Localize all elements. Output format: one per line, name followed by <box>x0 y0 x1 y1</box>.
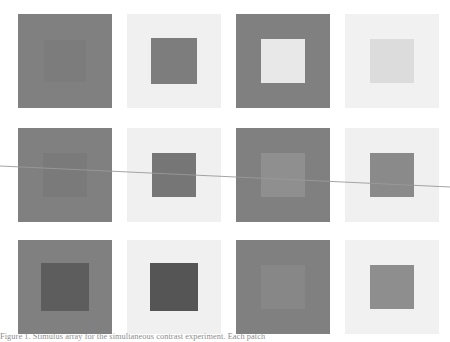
target-patch <box>370 265 414 309</box>
stimulus-cell <box>18 240 112 334</box>
target-patch <box>151 38 197 84</box>
stimulus-row <box>0 14 450 108</box>
stimulus-cell <box>127 240 221 334</box>
target-patch <box>150 263 198 311</box>
stimulus-grid <box>0 0 450 318</box>
stimulus-cell <box>18 14 112 108</box>
stimulus-cell <box>236 240 330 334</box>
caption-line-1: Figure 1. Stimulus array for the simulta… <box>0 331 450 342</box>
target-patch <box>44 40 86 82</box>
stimulus-row <box>0 240 450 334</box>
stimulus-row <box>0 128 450 222</box>
stimulus-cell <box>345 14 439 108</box>
figure-root: Figure 1. Stimulus array for the simulta… <box>0 0 450 342</box>
stimulus-cell <box>127 128 221 222</box>
target-patch <box>261 153 305 197</box>
target-patch <box>370 153 414 197</box>
target-patch <box>41 263 89 311</box>
stimulus-cell <box>236 14 330 108</box>
target-patch <box>43 153 87 197</box>
stimulus-cell <box>345 128 439 222</box>
stimulus-cell <box>236 128 330 222</box>
target-patch <box>152 153 196 197</box>
stimulus-cell <box>127 14 221 108</box>
figure-caption: Figure 1. Stimulus array for the simulta… <box>0 331 450 342</box>
target-patch <box>370 39 414 83</box>
stimulus-cell <box>345 240 439 334</box>
target-patch <box>261 39 305 83</box>
stimulus-cell <box>18 128 112 222</box>
target-patch <box>261 265 305 309</box>
